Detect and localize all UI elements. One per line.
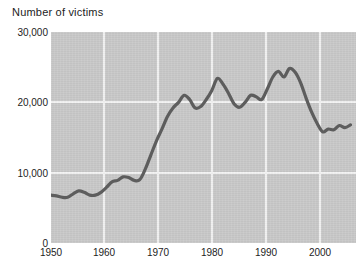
y-tick-label-20000: 20,000 — [2, 97, 48, 108]
x-tick-label-1950: 1950 — [40, 247, 62, 258]
x-tick-label-1970: 1970 — [147, 247, 169, 258]
series-line-number-of-victims — [51, 32, 356, 243]
x-tick-label-1980: 1980 — [201, 247, 223, 258]
x-tick-label-1990: 1990 — [255, 247, 277, 258]
x-tick-label-2000: 2000 — [309, 247, 331, 258]
x-tick-label-1960: 1960 — [93, 247, 115, 258]
y-axis-tick-labels: 30,000 20,000 10,000 0 — [0, 0, 48, 273]
y-tick-label-10000: 10,000 — [2, 168, 48, 179]
plot-area — [51, 32, 356, 243]
chart-container: Number of victims 30,000 20,000 10,000 0… — [0, 0, 364, 273]
y-tick-label-30000: 30,000 — [2, 27, 48, 38]
